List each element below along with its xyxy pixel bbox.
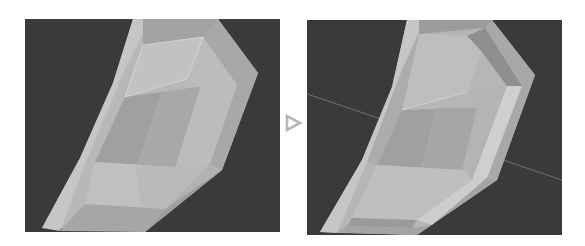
viewport-before: Before [25, 19, 280, 232]
right-triangle-outline-icon [283, 113, 303, 133]
mesh-before [25, 19, 280, 232]
mesh-after [307, 20, 562, 235]
viewport-after: After [307, 20, 562, 235]
